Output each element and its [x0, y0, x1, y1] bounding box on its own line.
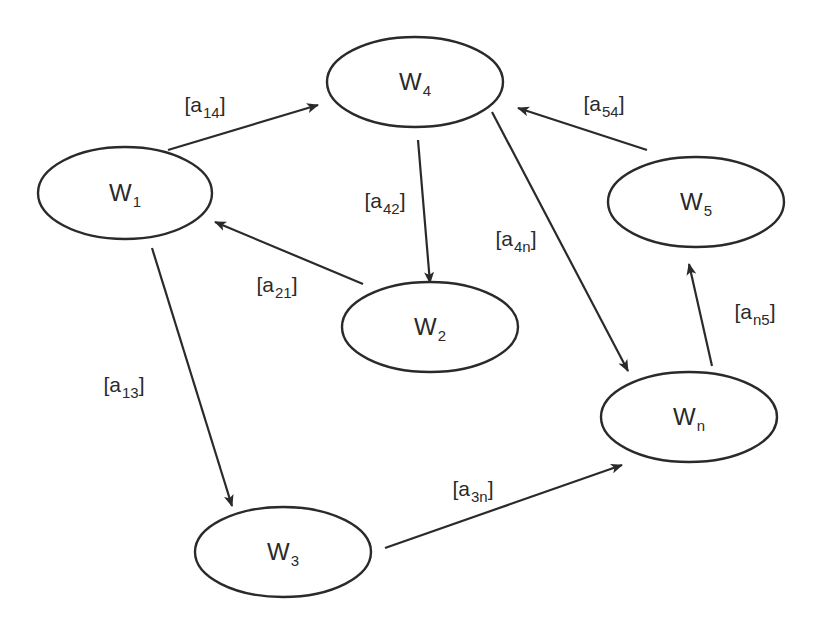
edge-label-subscript: 13 [122, 384, 139, 401]
edge-label-close: ] [139, 373, 145, 396]
node-label-base: W [414, 313, 437, 340]
edge-label-a42: [a42] [364, 190, 405, 211]
node-label-base: W [673, 403, 696, 430]
edge-label-base: [a [734, 300, 752, 323]
edge-label-a54: [a54] [583, 93, 624, 114]
edge-label-close: ] [292, 273, 298, 296]
edge-label-a4n: [a4n] [495, 228, 536, 249]
node-label-base: W [109, 179, 132, 206]
edge-label-a13: [a13] [103, 374, 144, 395]
edge-label-subscript: 54 [602, 103, 619, 120]
node-label-subscript: 1 [133, 193, 141, 210]
edge-label-base: [a [452, 477, 470, 500]
edge-label-close: ] [531, 227, 537, 250]
edge-label-subscript: 42 [383, 200, 400, 217]
node-label-base: W [267, 538, 290, 565]
node-label-base: W [399, 68, 422, 95]
edge-label-base: [a [583, 92, 601, 115]
edge-label-close: ] [770, 300, 776, 323]
node-label-subscript: n [697, 417, 705, 434]
edge-label-an5: [an5] [734, 301, 775, 322]
edge-label-a14: [a14] [184, 94, 225, 115]
edge-label-subscript: n5 [753, 311, 770, 328]
edge-arrow-a3n [385, 465, 622, 548]
edge-label-base: [a [364, 189, 382, 212]
edge-label-a21: [a21] [256, 274, 297, 295]
edge-label-close: ] [400, 189, 406, 212]
edge-label-base: [a [103, 373, 121, 396]
edge-label-subscript: 14 [203, 104, 220, 121]
nodes-layer [38, 37, 784, 597]
node-label-w2: W2 [414, 315, 446, 339]
node-label-w3: W3 [267, 540, 299, 564]
edge-label-a3n: [a3n] [452, 478, 493, 499]
edge-arrow-a42 [418, 140, 430, 283]
edge-label-close: ] [220, 93, 226, 116]
node-label-subscript: 2 [438, 327, 446, 344]
edge-label-close: ] [619, 92, 625, 115]
edge-label-subscript: 21 [275, 284, 292, 301]
node-label-w5: W5 [680, 190, 712, 214]
edge-label-base: [a [495, 227, 513, 250]
edge-label-close: ] [488, 477, 494, 500]
edge-label-subscript: 4n [514, 238, 531, 255]
node-label-subscript: 4 [423, 82, 431, 99]
node-label-subscript: 3 [291, 552, 299, 569]
node-label-wn: Wn [673, 405, 705, 429]
edge-label-subscript: 3n [471, 488, 488, 505]
node-label-base: W [680, 188, 703, 215]
edge-arrow-a13 [152, 248, 232, 506]
edge-arrow-an5 [689, 264, 712, 366]
node-label-w1: W1 [109, 181, 141, 205]
edge-label-base: [a [256, 273, 274, 296]
edge-label-base: [a [184, 93, 202, 116]
node-label-subscript: 5 [704, 202, 712, 219]
node-label-w4: W4 [399, 70, 431, 94]
